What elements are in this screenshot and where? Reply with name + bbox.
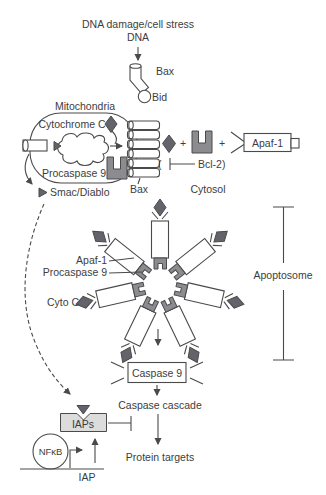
bax-channel-icon [128,121,160,177]
dna-damage-label: DNA damage/cell stress [82,18,194,30]
procaspase9-core-icon [154,258,167,269]
procaspase9-icon [192,131,212,153]
apaf1-callout-label: Apaf-1 [76,254,107,266]
apoptosome-spoke [167,225,232,282]
iaps-inhibition-tbar [108,416,131,431]
cytoc-diamond-icon [185,345,203,366]
apaf1-arm [184,283,224,308]
bcl2-label: Bcl-2) [198,158,225,170]
cytoc-diamond-icon [210,227,231,247]
caspase9-label: Caspase 9 [132,367,182,379]
bax-channel-label: Bax [130,183,149,195]
apaf1-arm [96,283,136,308]
bax-protein-icon [130,66,149,94]
cytochrome-c-label: Cytochrome C [38,118,106,130]
apaf1-arm [164,306,195,347]
cytoc-diamond-icon [89,227,110,247]
cristae-squiggle [58,133,109,166]
iaps-label: IAPs [72,418,94,430]
apoptosis-pathway-diagram: DNA damage/cell stress DNA Bax Bid Mitoc… [0,0,326,495]
procaspase9-mito-label: Procaspase 9 [42,167,106,179]
smac-binding-triangle-icon [77,406,90,415]
procaspase9-core-icon [132,282,146,297]
apaf1-box-label: Apaf-1 [252,137,283,149]
bid-label: Bid [152,91,167,103]
apoptosome-bracket [273,207,294,360]
mitochondria-label: Mitochondria [55,100,115,112]
apoptosome-bracket-label: Apoptosome [254,269,313,281]
apoptosome-spoke [152,199,169,269]
cytoc-diamond-icon [154,199,166,216]
smac-triangle-icon [39,188,47,197]
apoptosome-spoke [74,280,146,312]
bid-circle-icon [138,90,150,102]
cytoc-callout-label: Cyto C [47,296,80,308]
apaf1-arm [125,306,156,347]
plus-sign: + [219,137,225,149]
cytosol-label: Cytosol [190,183,225,195]
bax-label: Bax [156,65,175,77]
apaf1-card-chevron-icon [231,132,244,153]
smac-diablo-label: Smac/Diablo [50,186,110,198]
iap-gene-label: IAP [79,471,96,483]
procaspase9-callout-label: Procaspase 9 [43,266,107,278]
dna-label: DNA [127,31,149,43]
protein-targets-label: Protein targets [126,451,194,463]
apaf1-tab-icon [291,139,299,149]
nfkb-label: NFκB [39,446,63,457]
cytoc-diamond-icon [163,135,176,153]
transcription-start-arrow [70,450,82,468]
procaspase9-core-icon [174,283,188,298]
bcl2-inhibition-tbar [170,158,195,170]
apaf1-arm [152,221,169,258]
plus-sign: + [180,137,186,149]
caspase-cascade-label: Caspase cascade [118,399,202,411]
apoptosome-spoke [115,296,161,366]
bcl2-paren: ( [158,158,162,170]
apoptosome-spoke [159,296,205,366]
apoptosome-wheel [74,199,245,366]
bax-protein-cap-icon [130,64,141,69]
apoptosome-spoke [174,280,246,312]
smac-cylinder-cap-icon [23,140,28,151]
